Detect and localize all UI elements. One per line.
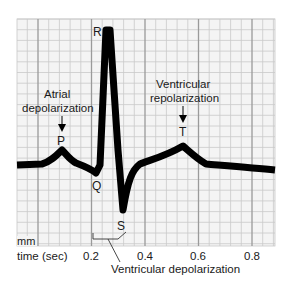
r-wave-label: R <box>93 25 102 39</box>
p-wave-label: P <box>57 134 65 148</box>
t-wave-label: T <box>179 125 187 139</box>
ventricular-repolarization-label-line1: Ventricular <box>156 78 211 90</box>
x-axis-tick-label: 0.6 <box>190 250 206 262</box>
mm-unit-label: mm <box>17 235 35 247</box>
x-axis-tick-label: 0.8 <box>244 250 260 262</box>
x-axis-label: time (sec) <box>17 250 68 262</box>
ecg-diagram: R Q S P T Atrial depolarization Ventricu… <box>0 0 287 284</box>
s-wave-label: S <box>117 219 125 233</box>
atrial-depolarization-label-line1: Atrial <box>44 88 70 100</box>
atrial-depolarization-label-line2: depolarization <box>22 102 94 114</box>
ventricular-depolarization-label: Ventricular depolarization <box>111 263 240 275</box>
ventricular-repolarization-label-line2: repolarization <box>150 92 219 104</box>
x-axis-tick-label: 0.2 <box>83 250 99 262</box>
q-wave-label: Q <box>92 179 101 193</box>
x-axis-tick-label: 0.4 <box>137 250 154 262</box>
x-axis-tick-labels: 0.20.40.60.8 <box>83 250 260 262</box>
